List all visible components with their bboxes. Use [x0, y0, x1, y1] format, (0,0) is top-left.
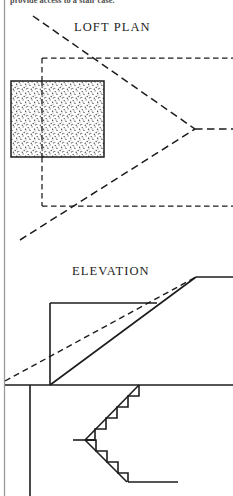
stair-lower-stringer — [85, 440, 127, 482]
stair-section — [73, 385, 178, 482]
loft-floor-area — [11, 81, 104, 157]
elevation-drawing — [5, 277, 233, 496]
loft-plan-title: LOFT PLAN — [74, 20, 151, 35]
elevation-roof-slope — [50, 277, 196, 385]
drawing-canvas — [0, 0, 233, 496]
elevation-title: ELEVATION — [72, 264, 150, 279]
stair-upper-stringer — [85, 385, 139, 440]
drawing-sheet: provide access to a stair case. — [0, 0, 233, 496]
loft-plan-drawing — [11, 16, 233, 240]
elevation-sight-line-dashed — [5, 277, 196, 381]
